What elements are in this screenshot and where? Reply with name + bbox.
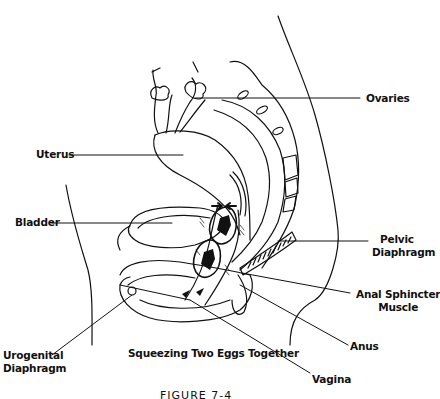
label-vagina: Vagina (312, 373, 351, 386)
label-anal-sphincter-line2: Muscle (356, 301, 440, 314)
ovary-left (151, 86, 169, 100)
label-anus: Anus (350, 340, 379, 353)
bladder-shape (128, 207, 225, 248)
label-uterus: Uterus (36, 148, 74, 161)
vertebra-oval (236, 89, 249, 101)
label-ovaries: Ovaries (366, 92, 410, 105)
leader-anus (240, 285, 348, 345)
body-outline-back (278, 16, 338, 345)
vertebra-oval (255, 104, 268, 115)
label-bladder: Bladder (15, 216, 60, 229)
label-pelvic-diaphragm-line2: Diaphragm (372, 246, 435, 259)
vertebra-oval (272, 126, 285, 136)
label-urogenital-diaphragm: Urogenital Diaphragm (3, 349, 66, 375)
anal-canal (232, 275, 247, 314)
body-outline-front (66, 185, 92, 345)
figure-caption: FIGURE 7-4 (160, 389, 232, 399)
label-pelvic-diaphragm-line1: Pelvic (372, 233, 435, 246)
fallopian-tube-left (153, 70, 158, 133)
leader-anal-sphincter (242, 273, 350, 293)
label-urogenital-line2: Diaphragm (3, 362, 66, 375)
figure-subtitle: Squeezing Two Eggs Together (128, 347, 299, 359)
leader-vagina (190, 300, 310, 373)
sacrum-outer (230, 61, 299, 268)
label-pelvic-diaphragm: Pelvic Diaphragm (372, 233, 435, 259)
label-anal-sphincter-line1: Anal Sphincter (356, 288, 440, 301)
label-urogenital-line1: Urogenital (3, 349, 66, 362)
perineum-curve (120, 261, 253, 322)
label-anal-sphincter-muscle: Anal Sphincter Muscle (356, 288, 440, 314)
pelvic-diaphragm-muscle (240, 232, 296, 275)
